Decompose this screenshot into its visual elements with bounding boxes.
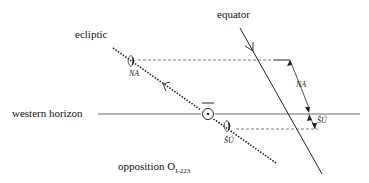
na-interval-label: NA	[296, 81, 306, 89]
opposition-main-text: opposition O	[118, 160, 175, 172]
western-horizon-label: western horizon	[12, 108, 83, 119]
sun-symbol-icon	[201, 103, 215, 120]
su-arrow-up-icon	[307, 115, 312, 121]
ecliptic-line	[113, 48, 276, 163]
su-interval-label: ŠÚ	[317, 117, 327, 125]
na-arrow-down-icon	[305, 107, 310, 113]
ecliptic-arrow-icon	[163, 82, 170, 91]
na-moon-label: NA	[129, 70, 139, 78]
equator-label: equator	[217, 9, 250, 20]
diagram-svg	[0, 0, 369, 183]
moon-crescent-su-icon	[224, 120, 231, 132]
opposition-label: opposition OI-223	[118, 161, 190, 175]
su-moon-label: ŠÚ	[224, 137, 234, 145]
equator-line	[240, 28, 322, 174]
lunar-phase-diagram: equator ecliptic western horizon NA NA Š…	[0, 0, 369, 183]
opposition-subscript: I-223	[175, 167, 190, 175]
ecliptic-label: ecliptic	[75, 29, 107, 40]
